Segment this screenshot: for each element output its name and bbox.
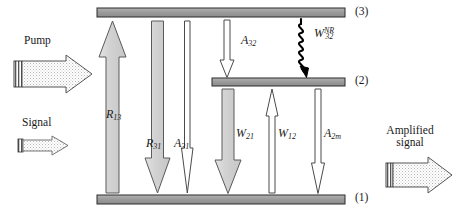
transition-label-W21: W21 xyxy=(236,127,254,142)
level-bar-2 xyxy=(212,78,345,86)
sym-sub: 21 xyxy=(246,132,254,141)
amplified-signal-block-arrow xyxy=(386,157,452,193)
level-label-1: (1) xyxy=(355,191,368,203)
sym: W xyxy=(314,26,324,40)
arrow-R31 xyxy=(145,21,170,193)
transition-label-R31: R31 xyxy=(146,137,161,152)
level-label-2: (2) xyxy=(355,74,368,86)
amplified-signal-label-line1: Amplified xyxy=(386,124,433,136)
transition-label-W32NR: WNR32 xyxy=(314,27,333,42)
arrow-A31 xyxy=(182,21,194,193)
amplified-signal-label-line2: signal xyxy=(396,136,423,148)
signal-block-arrow xyxy=(18,136,68,155)
transition-label-A2m: A2m xyxy=(324,127,341,142)
sym: W xyxy=(236,126,246,140)
transition-label-A32: A32 xyxy=(241,34,256,49)
arrow-W32NR-squiggle xyxy=(299,19,309,78)
pump-block-arrow xyxy=(14,55,92,93)
sym-sub: 12 xyxy=(288,132,296,141)
arrow-A2m xyxy=(312,89,325,194)
sym-sub: 32 xyxy=(325,32,333,41)
pump-label: Pump xyxy=(24,34,51,46)
sym-sub: 2m xyxy=(331,132,341,141)
signal-label: Signal xyxy=(22,116,51,128)
level-bar-1 xyxy=(97,195,345,204)
arrow-A32 xyxy=(220,20,234,78)
transition-label-W12: W12 xyxy=(278,127,296,142)
transition-label-A31: A31 xyxy=(174,137,189,152)
level-label-3: (3) xyxy=(355,5,368,17)
sym-sub: 31 xyxy=(181,142,189,151)
arrow-W12 xyxy=(266,89,278,193)
sym-sub: 13 xyxy=(113,113,121,122)
transition-label-R13: R13 xyxy=(106,108,121,123)
sym-sub: 32 xyxy=(248,39,256,48)
energy-level-diagram: (3) (2) (1) Pump Signal Amplified signal… xyxy=(0,0,453,216)
level-bar-3 xyxy=(97,8,345,17)
diagram-canvas xyxy=(0,0,453,216)
sym: W xyxy=(278,126,288,140)
amplified-signal-label: Amplified signal xyxy=(374,124,446,148)
sym-sub: 31 xyxy=(153,142,161,151)
